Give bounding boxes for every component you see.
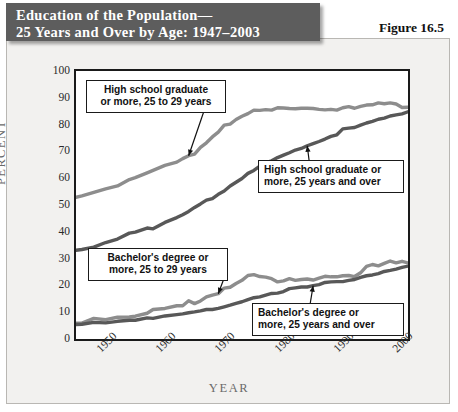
- annotation-hs-25-29-line1: High school graduate: [92, 84, 220, 96]
- annotation-hs-25-29: High school graduate or more, 25 to 29 y…: [86, 80, 226, 113]
- annotation-hs-25-over: High school graduate or more, 25 years a…: [258, 160, 404, 193]
- annotation-hs-25-29-line2: or more, 25 to 29 years: [92, 96, 220, 108]
- annotation-ba-25-over-line1: Bachelor's degree or: [258, 307, 398, 319]
- y-axis-tick-labels: 0102030405060708090100: [40, 69, 70, 341]
- title-line-1: Education of the Population—: [16, 7, 320, 24]
- annotation-ba-25-29: Bachelor's degree or more, 25 to 29 year…: [88, 248, 228, 281]
- annotation-ba-25-29-line1: Bachelor's degree or: [94, 252, 222, 264]
- y-tick-40: 40: [44, 225, 70, 237]
- y-tick-70: 70: [44, 144, 70, 156]
- y-tick-80: 80: [44, 118, 70, 130]
- title-banner: Education of the Population— 25 Years an…: [6, 3, 320, 41]
- annotation-ba-25-over-line2: more, 25 years and over: [258, 319, 398, 331]
- y-tick-20: 20: [44, 278, 70, 290]
- y-tick-60: 60: [44, 171, 70, 183]
- x-axis-title: YEAR: [0, 381, 458, 396]
- y-tick-10: 10: [44, 305, 70, 317]
- y-tick-90: 90: [44, 91, 70, 103]
- annotation-hs-25-over-line2: more, 25 years and over: [264, 176, 398, 188]
- title-line-2: 25 Years and Over by Age: 1947–2003: [16, 24, 320, 41]
- y-tick-100: 100: [44, 64, 70, 76]
- y-tick-30: 30: [44, 252, 70, 264]
- figure-page: Education of the Population— 25 Years an…: [0, 0, 458, 412]
- y-axis-title: PERCENT: [0, 120, 9, 185]
- y-tick-0: 0: [44, 332, 70, 344]
- y-tick-50: 50: [44, 198, 70, 210]
- annotation-ba-25-29-line2: more, 25 to 29 years: [94, 264, 222, 276]
- annotation-ba-25-over: Bachelor's degree or more, 25 years and …: [252, 303, 404, 336]
- leader-line-0: [189, 111, 204, 156]
- annotation-hs-25-over-line1: High school graduate or: [264, 164, 398, 176]
- figure-number-label: Figure 16.5: [379, 20, 444, 36]
